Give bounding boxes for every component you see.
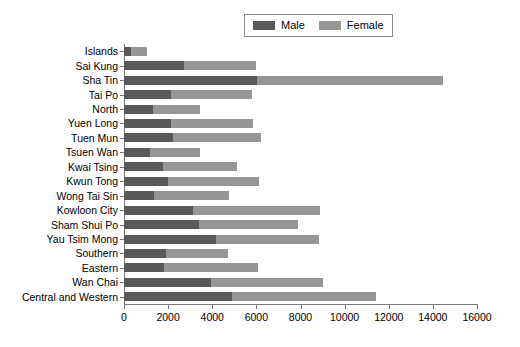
female-swatch (319, 21, 341, 30)
x-axis-tick-label: 12000 (364, 311, 414, 323)
bar-row[interactable] (0, 47, 520, 56)
bar-segment-male[interactable] (124, 148, 150, 157)
bar-segment-female[interactable] (168, 177, 258, 186)
x-axis-tick (345, 304, 346, 309)
bar-row[interactable] (0, 235, 520, 244)
legend-entry-male[interactable]: Male (253, 20, 305, 31)
bar-segment-male[interactable] (124, 90, 171, 99)
bar-row[interactable] (0, 61, 520, 70)
bar-row[interactable] (0, 220, 520, 229)
bar-segment-female[interactable] (257, 76, 442, 85)
bar-segment-male[interactable] (124, 278, 211, 287)
bar-segment-female[interactable] (216, 235, 320, 244)
bar-segment-female[interactable] (131, 47, 146, 56)
bar-row[interactable] (0, 292, 520, 301)
legend-label-female: Female (347, 20, 384, 31)
bar-segment-female[interactable] (199, 220, 298, 229)
bar-segment-male[interactable] (124, 133, 173, 142)
bar-segment-female[interactable] (184, 61, 257, 70)
bar-row[interactable] (0, 133, 520, 142)
bar-segment-female[interactable] (171, 119, 253, 128)
bar-segment-female[interactable] (232, 292, 375, 301)
bar-segment-female[interactable] (153, 105, 200, 114)
bar-segment-male[interactable] (124, 47, 131, 56)
legend-label-male: Male (281, 20, 305, 31)
bar-segment-male[interactable] (124, 292, 232, 301)
bar-segment-female[interactable] (154, 191, 229, 200)
bar-segment-male[interactable] (124, 177, 168, 186)
bar-segment-male[interactable] (124, 220, 199, 229)
bar-segment-male[interactable] (124, 162, 163, 171)
x-axis-tick (256, 304, 257, 309)
bar-segment-male[interactable] (124, 206, 193, 215)
x-axis-tick-label: 0 (99, 311, 149, 323)
bar-segment-male[interactable] (124, 76, 257, 85)
bar-segment-female[interactable] (173, 133, 261, 142)
bar-row[interactable] (0, 76, 520, 85)
x-axis-tick (301, 304, 302, 309)
bar-segment-male[interactable] (124, 235, 216, 244)
bar-segment-female[interactable] (193, 206, 320, 215)
bar-segment-male[interactable] (124, 263, 164, 272)
bar-row[interactable] (0, 119, 520, 128)
x-axis-tick (212, 304, 213, 309)
bar-row[interactable] (0, 105, 520, 114)
bar-row[interactable] (0, 162, 520, 171)
bar-row[interactable] (0, 148, 520, 157)
x-axis-tick-label: 8000 (276, 311, 326, 323)
bar-row[interactable] (0, 278, 520, 287)
bar-row[interactable] (0, 191, 520, 200)
x-axis-tick-label: 10000 (320, 311, 370, 323)
x-axis-tick (477, 304, 478, 309)
x-axis-tick-label: 16000 (452, 311, 502, 323)
x-axis-tick (389, 304, 390, 309)
x-axis-tick (124, 304, 125, 309)
bar-segment-female[interactable] (150, 148, 200, 157)
stacked-bar-chart: Male Female IslandsSai KungSha TinTai Po… (0, 0, 520, 347)
bar-segment-male[interactable] (124, 119, 171, 128)
male-swatch (253, 21, 275, 30)
x-axis-tick-label: 14000 (408, 311, 458, 323)
x-axis-tick (168, 304, 169, 309)
x-axis-tick-label: 2000 (143, 311, 193, 323)
bar-segment-male[interactable] (124, 105, 153, 114)
legend-entry-female[interactable]: Female (319, 20, 384, 31)
bar-segment-female[interactable] (166, 249, 228, 258)
x-axis-tick (433, 304, 434, 309)
bar-segment-male[interactable] (124, 61, 184, 70)
chart-legend: Male Female (244, 14, 393, 37)
bar-segment-female[interactable] (164, 263, 258, 272)
x-axis-tick-label: 4000 (187, 311, 237, 323)
bar-segment-male[interactable] (124, 249, 166, 258)
bar-segment-female[interactable] (163, 162, 237, 171)
bar-segment-male[interactable] (124, 191, 154, 200)
bar-row[interactable] (0, 263, 520, 272)
bar-segment-female[interactable] (171, 90, 252, 99)
bar-segment-female[interactable] (211, 278, 322, 287)
bar-row[interactable] (0, 206, 520, 215)
bar-row[interactable] (0, 249, 520, 258)
x-axis-tick-label: 6000 (231, 311, 281, 323)
bar-row[interactable] (0, 90, 520, 99)
bar-row[interactable] (0, 177, 520, 186)
